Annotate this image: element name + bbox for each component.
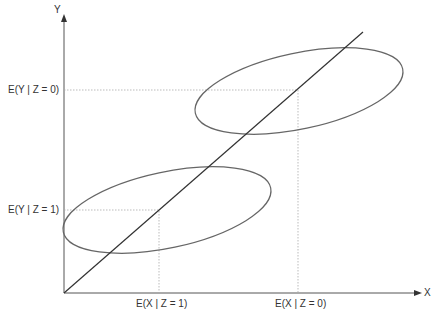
diagram-canvas	[0, 0, 448, 317]
ellipse-z0	[187, 32, 410, 150]
label-ey-z1: E(Y | Z = 1)	[8, 204, 59, 215]
y-axis-label: Y	[54, 4, 61, 15]
label-ey-z0: E(Y | Z = 0)	[8, 84, 59, 95]
label-ex-z1: E(X | Z = 1)	[136, 298, 187, 309]
x-axis-label: X	[424, 287, 431, 298]
regression-line	[64, 32, 363, 293]
label-ex-z0: E(X | Z = 0)	[275, 298, 326, 309]
